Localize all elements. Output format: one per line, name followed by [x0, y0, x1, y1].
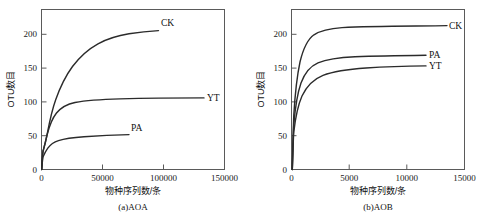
panel-a-plot: 0 50 100 150 200 0 50000 100000 150000 C… [0, 0, 240, 224]
x-tick-label: 0 [289, 173, 294, 183]
y-tick-label: 100 [274, 97, 288, 107]
y-axis-title: OTU数目 [255, 71, 266, 108]
x-tick-label: 15000 [453, 173, 476, 183]
y-axis-title: OTU数目 [5, 71, 16, 108]
y-tick-label: 0 [283, 165, 288, 175]
x-axis-title: 物种序列数/条 [105, 185, 162, 196]
x-tick-label: 100000 [150, 173, 178, 183]
x-axis-ticks [42, 165, 225, 170]
series-label-yt: YT [207, 93, 220, 103]
x-tick-label: 0 [39, 173, 44, 183]
y-tick-label: 0 [33, 165, 38, 175]
panel-caption: (a)AOA [118, 202, 148, 212]
series-label-ck: CK [449, 21, 462, 31]
x-tick-label: 50000 [91, 173, 114, 183]
y-tick-label: 200 [274, 29, 288, 39]
panel-b-plot: 0 50 100 150 200 0 5000 10000 15000 CK P… [240, 0, 480, 224]
curve-ck [292, 26, 447, 170]
series-label-ck: CK [161, 18, 174, 28]
series-label-pa: PA [131, 123, 142, 133]
x-tick-label: 150000 [211, 173, 239, 183]
curve-yt [42, 98, 204, 170]
y-tick-label: 150 [274, 63, 288, 73]
x-axis-title: 物种序列数/条 [350, 185, 407, 196]
y-tick-label: 200 [24, 29, 38, 39]
panel-a: 0 50 100 150 200 0 50000 100000 150000 C… [0, 0, 240, 224]
y-tick-label: 50 [28, 131, 38, 141]
y-tick-label: 50 [278, 131, 288, 141]
y-tick-label: 100 [24, 97, 38, 107]
curve-yt [292, 66, 426, 170]
x-tick-label: 10000 [396, 173, 419, 183]
x-tick-label: 5000 [340, 173, 359, 183]
figure-container: 0 50 100 150 200 0 50000 100000 150000 C… [0, 0, 480, 224]
panel-b: 0 50 100 150 200 0 5000 10000 15000 CK P… [240, 0, 480, 224]
curve-pa [42, 135, 129, 170]
series-label-yt: YT [429, 61, 442, 71]
y-tick-label: 150 [24, 63, 38, 73]
panel-caption: (b)AOB [363, 202, 393, 212]
x-axis-ticks [292, 165, 465, 170]
series-label-pa: PA [429, 50, 440, 60]
curve-pa [292, 55, 426, 169]
